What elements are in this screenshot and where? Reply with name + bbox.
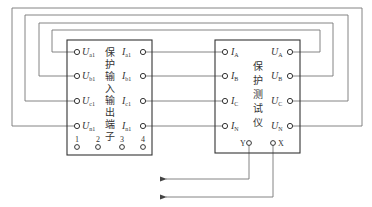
title-char: 护 [105, 58, 115, 70]
title-char: 保 [105, 46, 115, 58]
svg-text:Un1: Un1 [82, 120, 95, 132]
svg-text:X: X [278, 139, 284, 148]
title-char: 端 [105, 118, 115, 130]
svg-text:IN: IN [230, 120, 239, 132]
terminal-1: 1 [75, 135, 80, 149]
terminal-ub1: Ub1 [74, 70, 95, 82]
voltage-wires [12, 8, 362, 126]
title-char: 试 [253, 102, 263, 114]
svg-text:UA: UA [271, 46, 283, 58]
svg-text:IA: IA [230, 46, 239, 58]
svg-text:UN: UN [271, 120, 283, 132]
terminal-uc: UC [271, 95, 293, 107]
terminal-ib1: Ib1 [121, 70, 146, 82]
wire-ua [52, 30, 320, 52]
terminal-in: IN [222, 120, 239, 132]
svg-text:1: 1 [75, 135, 79, 144]
title-char: 护 [253, 74, 263, 86]
title-char: 保 [253, 60, 263, 72]
terminal-ua: UA [271, 46, 293, 58]
svg-text:2: 2 [96, 135, 100, 144]
svg-text:IB: IB [230, 70, 238, 82]
wire-y-output [166, 145, 249, 179]
title-char: 出 [105, 106, 115, 118]
terminal-uc1: Uc1 [74, 95, 95, 107]
svg-text:Ia1: Ia1 [121, 46, 131, 58]
title-char: 输 [105, 94, 115, 106]
title-char: 测 [253, 88, 263, 100]
terminal-ia: IA [222, 46, 239, 58]
svg-text:UB: UB [271, 70, 282, 82]
terminal-2: 2 [96, 135, 101, 149]
terminal-ib: IB [222, 70, 238, 82]
title-char: 输 [105, 70, 115, 82]
protection-tester: 保 护 测 试 仪 IA IB IC IN UA UB [215, 40, 300, 153]
svg-text:Uc1: Uc1 [82, 95, 95, 107]
terminal-y: Y [240, 139, 251, 148]
terminal-un1: Un1 [74, 120, 95, 132]
terminal-ic: IC [222, 95, 238, 107]
left-device-title: 保 护 输 入 输 出 端 子 [105, 46, 115, 142]
terminal-ua1: Ua1 [74, 46, 95, 58]
svg-text:Y: Y [240, 139, 246, 148]
svg-text:Ic1: Ic1 [121, 95, 131, 107]
terminal-ic1: Ic1 [121, 95, 146, 107]
svg-text:4: 4 [141, 135, 145, 144]
svg-text:In1: In1 [121, 120, 131, 132]
terminal-in1: In1 [121, 120, 146, 132]
svg-text:IC: IC [230, 95, 238, 107]
title-char: 子 [105, 131, 115, 142]
right-device-title: 保 护 测 试 仪 [253, 60, 263, 128]
svg-text:Ib1: Ib1 [121, 70, 131, 82]
protection-io-terminal-block: 保 护 输 入 输 出 端 子 Ua1 Ub1 Uc1 Un1 Ia1 [67, 40, 152, 155]
terminal-4: 4 [141, 135, 146, 149]
terminal-un: UN [271, 120, 293, 132]
title-char: 仪 [253, 117, 263, 128]
title-char: 入 [105, 83, 115, 94]
svg-text:UC: UC [271, 95, 282, 107]
svg-text:Ub1: Ub1 [82, 70, 95, 82]
terminal-ia1: Ia1 [121, 46, 146, 58]
terminal-3: 3 [120, 135, 125, 149]
svg-text:3: 3 [120, 135, 124, 144]
wire-un [12, 8, 362, 126]
svg-text:Ua1: Ua1 [82, 46, 95, 58]
current-wires [144, 52, 223, 126]
terminal-ub: UB [271, 70, 293, 82]
